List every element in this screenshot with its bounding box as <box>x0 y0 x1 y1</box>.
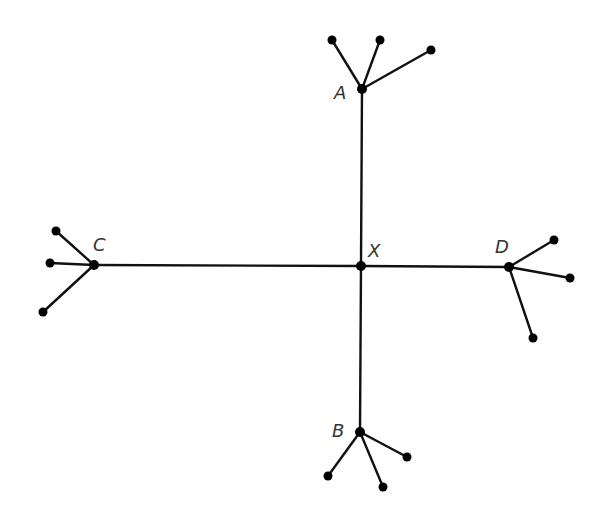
leaf-node-d-1 <box>566 274 575 283</box>
hub-node-d <box>504 262 514 272</box>
leaf-node-b-1 <box>379 483 388 492</box>
node-label-d: D <box>495 238 509 256</box>
leaf-node-c-0 <box>52 227 61 236</box>
leaf-node-d-0 <box>550 236 559 245</box>
edge-d-leaf-0 <box>509 240 554 267</box>
center-node-x <box>356 261 366 271</box>
hub-node-c <box>89 260 99 270</box>
leaf-node-b-2 <box>403 453 412 462</box>
edge-x-b <box>360 266 361 432</box>
node-label-a: A <box>334 84 346 102</box>
leaf-node-c-2 <box>39 308 48 317</box>
edge-a-leaf-2 <box>362 50 431 89</box>
edge-d-leaf-2 <box>509 267 533 338</box>
tree-graph <box>0 0 606 524</box>
edge-b-leaf-2 <box>360 432 407 457</box>
edge-x-d <box>361 266 509 267</box>
leaf-node-b-0 <box>324 472 333 481</box>
leaf-node-a-1 <box>376 36 385 45</box>
tree-diagram: X A B C D <box>0 0 606 524</box>
edge-d-leaf-1 <box>509 267 570 278</box>
node-label-c: C <box>93 236 106 254</box>
leaf-node-c-1 <box>46 259 55 268</box>
edge-c-leaf-0 <box>56 231 94 265</box>
edge-c-leaf-2 <box>43 265 94 312</box>
edge-c-leaf-1 <box>50 263 94 265</box>
hub-node-a <box>357 84 367 94</box>
edge-x-a <box>361 89 362 266</box>
leaf-node-a-0 <box>328 36 337 45</box>
edge-x-c <box>94 265 361 266</box>
hub-node-b <box>355 427 365 437</box>
node-label-x: X <box>368 242 380 260</box>
leaf-node-d-2 <box>529 334 538 343</box>
node-label-b: B <box>332 422 344 440</box>
edge-b-leaf-1 <box>360 432 383 487</box>
leaf-node-a-2 <box>427 46 436 55</box>
